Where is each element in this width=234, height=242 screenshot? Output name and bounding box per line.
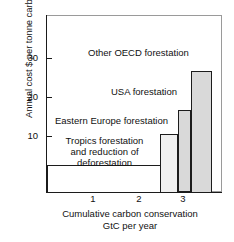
chart-figure: Annual cost $ per tonne carbon 30 20 10 …	[0, 0, 234, 242]
y-axis-title: Annual cost $ per tonne carbon	[23, 0, 34, 144]
annotation-usa-forestation: USA forestation	[111, 86, 177, 98]
annotation-eastern-europe-forestation: Eastern Europe forestation	[55, 115, 168, 127]
x-axis-title: Cumulative carbon conservation GtC per y…	[30, 208, 230, 232]
x-tick-label-3: 3	[173, 194, 193, 204]
x-axis-title-line2: GtC per year	[30, 220, 230, 232]
bar-usa-forestation	[178, 110, 192, 192]
x-tick-label-1: 1	[83, 194, 103, 204]
x-axis-title-line1: Cumulative carbon conservation	[30, 208, 230, 220]
y-tick-label-10: 10	[16, 131, 38, 141]
y-tick-mark-20	[46, 97, 52, 98]
y-tick-mark-30	[46, 58, 52, 59]
x-tick-label-2: 2	[129, 194, 149, 204]
y-tick-label-30: 30	[16, 53, 38, 63]
y-tick-label-20: 20	[16, 92, 38, 102]
annotation-tropics-forestation-line3: deforestation	[52, 157, 157, 169]
bar-eastern-europe-forestation	[160, 134, 178, 193]
annotation-other-oecd-forestation: Other OECD forestation	[88, 47, 189, 59]
bar-other-oecd-forestation	[191, 71, 212, 193]
